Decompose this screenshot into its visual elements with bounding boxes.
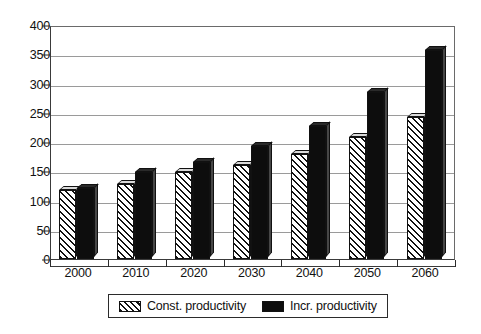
bar-front-face — [59, 190, 76, 259]
x-axis-tick-label-2030: 2030 — [222, 266, 282, 280]
bar-incr-productivity-2030 — [251, 146, 268, 259]
x-axis-tick-mark — [397, 260, 398, 267]
x-axis-tick-label-2000: 2000 — [48, 266, 108, 280]
bar-side-face — [210, 157, 214, 257]
bar-front-face — [193, 162, 210, 259]
chart-legend: Const. productivityIncr. productivity — [108, 294, 388, 318]
x-axis-tick-mark — [108, 260, 109, 267]
bar-side-face — [268, 141, 272, 257]
legend-entry-incr-productivity: Incr. productivity — [262, 299, 377, 313]
bar-front-face — [117, 184, 134, 259]
bar-const-productivity-2050 — [349, 137, 366, 259]
bar-const-productivity-2040 — [291, 154, 308, 259]
bar-front-face — [135, 172, 152, 259]
y-axis-tick-mark — [42, 260, 50, 261]
bar-side-face — [152, 168, 156, 257]
hatched-swatch — [119, 301, 141, 312]
bar-front-face — [349, 137, 366, 259]
bar-const-productivity-2030 — [233, 165, 250, 259]
bar-front-face — [291, 154, 308, 259]
bar-side-face — [442, 45, 446, 257]
x-axis-tick-mark — [50, 260, 51, 267]
bar-front-face — [251, 146, 268, 259]
x-axis-tick-mark — [281, 260, 282, 267]
legend-label: Incr. productivity — [290, 299, 377, 313]
y-axis: 050100150200250300350400 — [0, 0, 50, 300]
bar-front-face — [407, 117, 424, 259]
y-axis-tick-mark — [42, 113, 50, 114]
y-axis-tick-mark — [42, 84, 50, 85]
y-axis-tick-mark — [42, 143, 50, 144]
bar-front-face — [233, 165, 250, 259]
x-axis-tick-label-2040: 2040 — [279, 266, 339, 280]
gridline — [51, 56, 454, 57]
y-axis-tick-mark — [42, 55, 50, 56]
x-axis-tick-label-2050: 2050 — [337, 266, 397, 280]
x-axis-tick-mark — [455, 260, 456, 267]
bar-front-face — [367, 92, 384, 259]
y-axis-tick-mark — [42, 172, 50, 173]
y-axis-tick-mark — [42, 230, 50, 231]
x-axis-tick-mark — [339, 260, 340, 267]
bar-incr-productivity-2060 — [425, 50, 442, 259]
legend-label: Const. productivity — [147, 299, 246, 313]
bar-const-productivity-2010 — [117, 184, 134, 259]
bar-incr-productivity-2040 — [309, 126, 326, 259]
x-axis-tick-label-2060: 2060 — [395, 266, 455, 280]
plot-area — [50, 26, 455, 260]
bar-incr-productivity-2000 — [77, 188, 94, 259]
bar-incr-productivity-2050 — [367, 92, 384, 259]
bar-const-productivity-2020 — [175, 172, 192, 259]
x-axis-tick-label-2010: 2010 — [106, 266, 166, 280]
bar-const-productivity-2000 — [59, 190, 76, 259]
bar-side-face — [326, 121, 330, 257]
bar-front-face — [309, 126, 326, 259]
solid-swatch — [262, 301, 284, 312]
gridline — [51, 86, 454, 87]
bar-chart-figure: 050100150200250300350400 200020102020203… — [0, 0, 481, 334]
gridline — [51, 115, 454, 116]
x-axis-tick-label-2020: 2020 — [164, 266, 224, 280]
y-axis-tick-mark — [42, 201, 50, 202]
bar-incr-productivity-2010 — [135, 172, 152, 259]
bar-incr-productivity-2020 — [193, 162, 210, 259]
bar-side-face — [94, 183, 98, 257]
bar-front-face — [425, 50, 442, 259]
y-axis-tick-mark — [42, 26, 50, 27]
x-axis-tick-mark — [224, 260, 225, 267]
x-axis-tick-mark — [166, 260, 167, 267]
bar-front-face — [175, 172, 192, 259]
bar-const-productivity-2060 — [407, 117, 424, 259]
bar-side-face — [384, 88, 388, 257]
bar-front-face — [77, 188, 94, 259]
legend-entry-const-productivity: Const. productivity — [119, 299, 246, 313]
